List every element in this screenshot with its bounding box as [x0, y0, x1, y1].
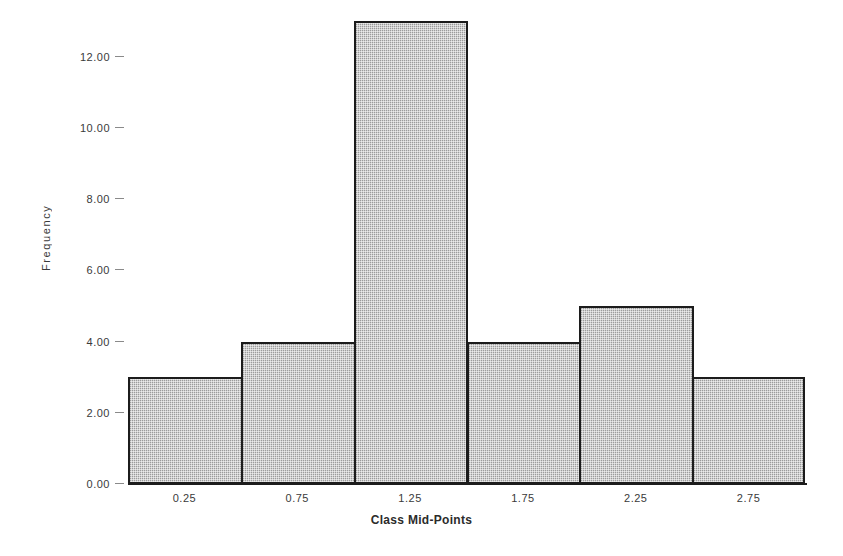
- y-axis-tick-mark: [115, 483, 124, 484]
- y-axis-tick: 0.00: [0, 477, 128, 491]
- y-axis-tick-label: 4.00: [87, 335, 110, 349]
- y-axis-tick: 12.00: [0, 50, 128, 64]
- y-axis-tick: 6.00: [0, 263, 128, 277]
- y-axis-tick-label: 0.00: [87, 477, 110, 491]
- plot-area: [128, 20, 805, 484]
- y-axis-tick-label: 12.00: [80, 50, 110, 64]
- y-axis-tick-mark: [115, 269, 124, 270]
- x-axis-tick-label: 1.75: [467, 489, 580, 507]
- histogram-bar: [579, 306, 694, 484]
- histogram-figure: Frequency 0.002.004.006.008.0010.0012.00…: [0, 0, 843, 556]
- histogram-bar: [692, 377, 805, 484]
- histogram-bar: [128, 377, 243, 484]
- y-axis-tick: 2.00: [0, 406, 128, 420]
- y-axis-tick: 8.00: [0, 192, 128, 206]
- y-axis-tick-label: 2.00: [87, 406, 110, 420]
- y-axis-tick-mark: [115, 56, 124, 57]
- histogram-bar: [354, 21, 469, 484]
- y-axis-tick-label: 10.00: [80, 121, 110, 135]
- x-axis-tick-label: 0.75: [241, 489, 354, 507]
- y-axis-tick-mark: [115, 127, 124, 128]
- x-axis-tick-label: 0.25: [128, 489, 241, 507]
- y-axis-tick-mark: [115, 412, 124, 413]
- histogram-bar: [467, 342, 582, 484]
- y-axis-tick-mark: [115, 198, 124, 199]
- x-axis-tick-label: 2.25: [579, 489, 692, 507]
- y-axis-tick: 10.00: [0, 121, 128, 135]
- y-axis-tick: 4.00: [0, 335, 128, 349]
- y-axis-tick-mark: [115, 341, 124, 342]
- x-axis-tick-label: 1.25: [354, 489, 467, 507]
- x-axis-tick-label: 2.75: [692, 489, 805, 507]
- y-axis-tick-label: 8.00: [87, 192, 110, 206]
- y-axis-tick-label: 6.00: [87, 263, 110, 277]
- x-axis-title: Class Mid-Points: [0, 513, 843, 527]
- histogram-bar: [241, 342, 356, 484]
